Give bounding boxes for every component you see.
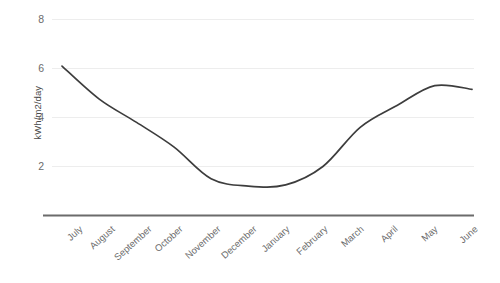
gridlines (52, 20, 474, 167)
chart-container: kWh/m2/day 8 6 4 2 July August September… (0, 0, 500, 283)
data-line-series-1 (62, 66, 472, 187)
